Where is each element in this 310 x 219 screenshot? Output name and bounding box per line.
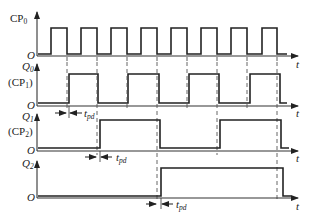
q1-t-label: t — [296, 152, 300, 164]
timing-diagram: CP0 O t Q0 (CP1) O t tpd — [0, 0, 310, 219]
q2-origin-label: O — [27, 191, 35, 203]
q2-trace: Q2 O t tpd — [22, 157, 300, 212]
q2-tpd-label: tpd — [176, 198, 187, 212]
q1-tpd-annotation: tpd — [85, 151, 127, 165]
q2-waveform — [38, 168, 291, 196]
q2-label: Q2 — [22, 157, 34, 171]
q1-label: Q1 — [22, 110, 34, 124]
q1-trace: Q1 (CP2) O t tpd — [8, 110, 300, 165]
q0-label: Q0 — [22, 60, 34, 74]
q1-alias-label: (CP2) — [8, 125, 33, 139]
cp0-label: CP0 — [10, 12, 27, 26]
q1-waveform — [38, 120, 289, 148]
cp0-waveform — [38, 28, 287, 54]
cp0-t-label: t — [296, 58, 300, 70]
q0-waveform — [38, 74, 287, 103]
q0-alias-label: (CP1) — [8, 76, 33, 90]
q1-tpd-label: tpd — [116, 151, 127, 165]
q0-tpd-annotation: tpd — [55, 106, 95, 121]
cp0-trace: CP0 O t — [10, 12, 300, 70]
q0-trace: Q0 (CP1) O t tpd — [8, 60, 300, 202]
cp0-ticks — [67, 57, 277, 61]
q2-tpd-annotation: tpd — [146, 198, 187, 212]
q0-tpd-label: tpd — [84, 107, 95, 121]
q0-t-label: t — [296, 107, 300, 119]
q1-origin-label: O — [27, 144, 35, 156]
q2-t-label: t — [296, 200, 300, 212]
